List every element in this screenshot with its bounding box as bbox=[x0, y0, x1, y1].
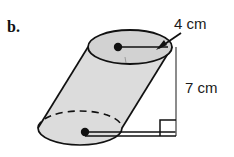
diameter-label: 4 cm bbox=[174, 16, 207, 31]
top-face-center-dot bbox=[114, 43, 122, 51]
bottom-face-center-dot bbox=[81, 128, 89, 136]
right-angle-marker bbox=[160, 120, 176, 136]
figure-container: b. 4 cm bbox=[0, 0, 234, 157]
height-label: 7 cm bbox=[185, 80, 218, 95]
